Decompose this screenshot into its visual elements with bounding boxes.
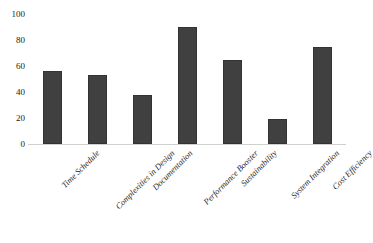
bar [313,47,332,145]
bar [88,75,107,144]
y-axis-tick-label: 80 [16,35,25,45]
bar-series [30,14,345,144]
label-slot: Documentation [120,146,165,241]
bar [178,27,197,144]
label-slot: Sustainability [210,146,255,241]
y-axis-tick-label: 0 [21,139,26,149]
bar-slot [120,14,165,144]
y-axis-tick-label: 60 [16,61,25,71]
label-slot: System Integration [255,146,300,241]
bar [43,71,62,144]
bar-slot [255,14,300,144]
bar-slot [75,14,120,144]
x-axis-line [28,144,346,145]
bar [268,119,287,144]
x-axis-tick-label: Cost Efficiency [330,148,373,192]
label-slot: Cost Efficiency [300,146,345,241]
bar-slot [165,14,210,144]
bar [223,60,242,145]
y-axis-tick-label: 100 [12,9,26,19]
bar-slot [300,14,345,144]
label-slot: Complexities in Design [75,146,120,241]
y-axis: 020406080100 [0,14,28,144]
x-axis-category-labels: Time ScheduleComplexities in DesignDocum… [30,146,345,241]
y-axis-tick-label: 40 [16,87,25,97]
bar [133,95,152,144]
label-slot: Time Schedule [30,146,75,241]
label-slot: Performance Booster [165,146,210,241]
bar-slot [210,14,255,144]
bar-slot [30,14,75,144]
y-axis-tick-label: 20 [16,113,25,123]
